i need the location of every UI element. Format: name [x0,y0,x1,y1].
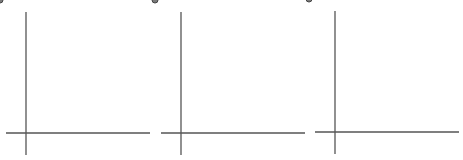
unit-circle-diagram [0,0,463,160]
panel-pi-over-3 [306,0,459,154]
point-on-circle [152,0,158,3]
point-on-circle [306,0,312,2]
panel-pi-over-4 [152,0,305,155]
panel-pi-over-6 [0,0,150,155]
point-on-circle [0,0,3,3]
